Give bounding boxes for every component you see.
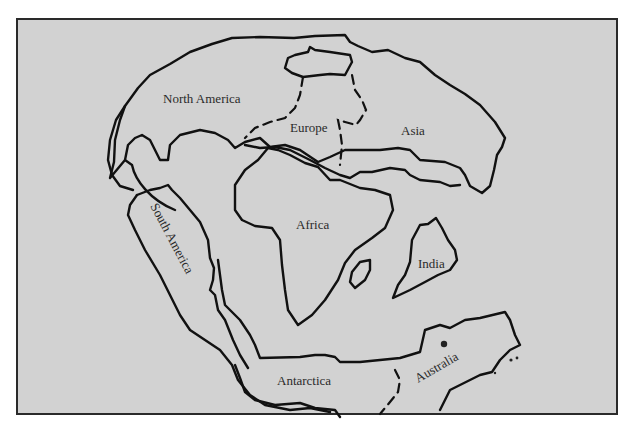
label-europe: Europe bbox=[290, 120, 328, 135]
island-dot bbox=[494, 372, 496, 374]
label-india: India bbox=[418, 256, 445, 271]
label-asia: Asia bbox=[401, 123, 425, 138]
island-dot bbox=[516, 357, 519, 360]
pangaea-map: North AmericaEuropeAsiaAfricaSouth Ameri… bbox=[0, 0, 632, 425]
label-africa: Africa bbox=[296, 217, 329, 232]
island-dot bbox=[509, 358, 512, 361]
label-north-america: North America bbox=[163, 91, 241, 106]
label-antarctica: Antarctica bbox=[277, 373, 331, 388]
island-dot bbox=[441, 341, 447, 347]
